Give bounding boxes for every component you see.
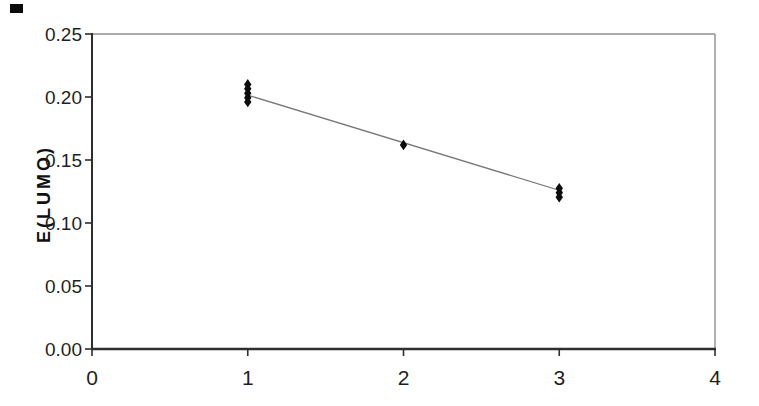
scatter-chart-figure: E(LUMO) 0.000.050.100.150.200.2501234 (0, 0, 759, 406)
y-tick-label: 0.20 (45, 87, 82, 108)
y-tick-label: 0.05 (45, 276, 82, 297)
x-tick-label: 4 (709, 366, 721, 389)
data-point-marker (400, 140, 407, 151)
y-tick-label: 0.00 (45, 339, 82, 360)
y-tick-label: 0.10 (45, 213, 82, 234)
x-tick-label: 2 (398, 366, 410, 389)
x-tick-label: 1 (242, 366, 254, 389)
x-tick-label: 0 (86, 366, 98, 389)
y-tick-label: 0.15 (45, 150, 82, 171)
scatter-plot: 0.000.050.100.150.200.2501234 (0, 0, 759, 406)
y-tick-label: 0.25 (45, 24, 82, 45)
x-tick-label: 3 (553, 366, 565, 389)
